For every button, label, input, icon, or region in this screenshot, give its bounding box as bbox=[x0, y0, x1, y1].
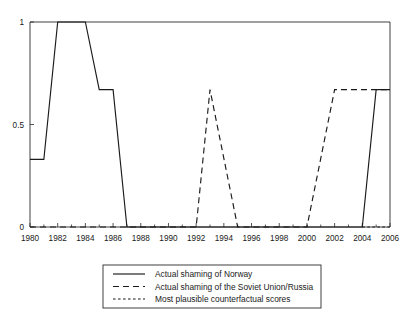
y-tick-label: 0.5 bbox=[13, 121, 25, 130]
line-chart: 00.51 1980198219841986198819901992199419… bbox=[0, 0, 409, 320]
x-tick-label: 2006 bbox=[381, 234, 400, 243]
legend-item-label: Most plausible counterfactual scores bbox=[155, 294, 290, 304]
legend-item-label: Actual shaming of Norway bbox=[155, 269, 253, 279]
x-axis-labels: 1980198219841986198819901992199419961998… bbox=[21, 234, 400, 243]
x-tick-label: 1998 bbox=[270, 234, 289, 243]
x-tick-label: 2004 bbox=[353, 234, 372, 243]
x-tick-label: 1990 bbox=[159, 234, 178, 243]
series-line-1 bbox=[30, 90, 390, 227]
x-tick-label: 2002 bbox=[326, 234, 345, 243]
y-tick-label: 0 bbox=[19, 223, 24, 232]
series-line-0 bbox=[30, 22, 390, 227]
series-group bbox=[30, 22, 390, 227]
x-tick-label: 1986 bbox=[104, 234, 123, 243]
legend-item-label: Actual shaming of the Soviet Union/Russi… bbox=[155, 282, 314, 292]
x-tick-label: 1980 bbox=[21, 234, 40, 243]
chart-legend: Actual shaming of NorwayActual shaming o… bbox=[103, 265, 321, 308]
x-tick-label: 2000 bbox=[298, 234, 317, 243]
x-tick-label: 1996 bbox=[242, 234, 261, 243]
x-tick-label: 1984 bbox=[76, 234, 95, 243]
chart-figure: 00.51 1980198219841986198819901992199419… bbox=[0, 0, 409, 320]
x-tick-label: 1982 bbox=[49, 234, 68, 243]
x-tick-label: 1992 bbox=[187, 234, 206, 243]
plot-frame bbox=[30, 22, 390, 227]
x-tick-label: 1994 bbox=[215, 234, 234, 243]
x-tick-label: 1988 bbox=[132, 234, 151, 243]
y-axis-ticks bbox=[30, 22, 34, 227]
y-tick-label: 1 bbox=[19, 18, 24, 27]
y-axis-labels: 00.51 bbox=[13, 18, 25, 232]
x-axis-ticks bbox=[30, 223, 390, 227]
